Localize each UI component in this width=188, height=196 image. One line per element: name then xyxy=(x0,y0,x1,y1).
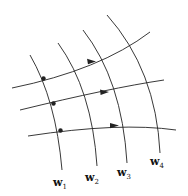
curve-w1 xyxy=(30,55,62,170)
diagram-canvas: w1 w2 w3 w4 xyxy=(0,0,188,196)
point-marker xyxy=(41,76,45,80)
label-w1: w1 xyxy=(53,176,67,191)
label-w2: w2 xyxy=(85,171,99,186)
label-w4: w4 xyxy=(150,155,164,170)
flow-line-2 xyxy=(20,80,164,110)
curve-w3 xyxy=(83,30,127,163)
point-marker xyxy=(51,101,55,105)
flow-line-3 xyxy=(28,127,176,136)
curve-w4 xyxy=(107,15,160,153)
point-marker xyxy=(58,128,62,132)
label-w3: w3 xyxy=(117,166,131,181)
